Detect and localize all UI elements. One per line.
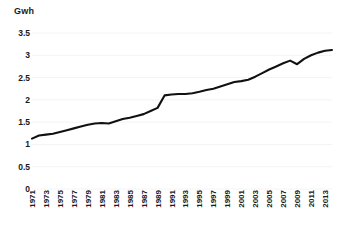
x-axis-tick-label: 1995 <box>195 190 204 208</box>
x-axis-tick-label: 1973 <box>42 190 51 208</box>
x-axis-tick-label: 2001 <box>237 190 246 208</box>
x-axis-tick-label: 1987 <box>140 190 149 208</box>
x-axis-tick-label: 1981 <box>98 190 107 208</box>
x-axis-tick-label: 1993 <box>181 190 190 208</box>
x-axis-tick-label: 1989 <box>154 190 163 208</box>
x-axis-tick-label: 1999 <box>223 190 232 208</box>
x-axis-tick-label: 2007 <box>279 190 288 208</box>
x-axis-tick-label: 1983 <box>112 190 121 208</box>
x-axis-tick-label: 1971 <box>28 190 37 208</box>
x-axis-tick-label: 1975 <box>56 190 65 208</box>
x-axis-tick-label: 2003 <box>251 190 260 208</box>
x-axis-tick-label: 1991 <box>168 190 177 208</box>
x-axis-ticks: 1971197319751977197919811983198519871989… <box>0 0 338 225</box>
x-axis-tick-label: 1979 <box>84 190 93 208</box>
line-chart: Gwh 00.511.522.533.5 1971197319751977197… <box>0 0 338 225</box>
x-axis-tick-label: 2005 <box>265 190 274 208</box>
x-axis-tick-label: 1985 <box>126 190 135 208</box>
x-axis-tick-label: 1977 <box>70 190 79 208</box>
x-axis-tick-label: 2011 <box>307 190 316 207</box>
x-axis-tick-label: 2013 <box>321 190 330 208</box>
x-axis-tick-label: 1997 <box>209 190 218 208</box>
x-axis-tick-label: 2009 <box>293 190 302 208</box>
